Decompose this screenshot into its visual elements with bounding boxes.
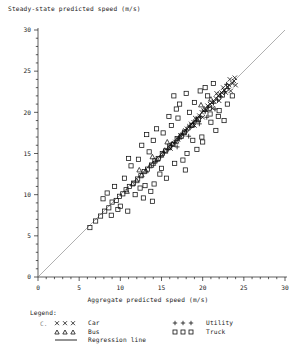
legend-title: Legend: — [30, 309, 57, 316]
legend-label-utility: Utility — [206, 319, 233, 328]
x-tick-label: 0 — [36, 284, 40, 291]
legend-column-right: Utility Truck — [172, 319, 233, 336]
y-tick-label: 20 — [24, 109, 32, 116]
x-axis-title: Aggregate predicted speed (m/s) — [0, 296, 296, 303]
line-marker-icon — [54, 336, 88, 345]
x-tick-label: 20 — [199, 284, 207, 291]
square-marker-icon — [172, 328, 206, 337]
x-marker-icon — [54, 319, 88, 328]
legend: Legend: C. Car — [30, 309, 280, 349]
legend-label-bus: Bus — [88, 328, 100, 337]
legend-item-utility: Utility — [172, 319, 233, 328]
x-tick-label: 5 — [77, 284, 81, 291]
regression-line — [38, 30, 285, 277]
y-tick-label: 0 — [27, 273, 31, 280]
legend-label-car: Car — [88, 319, 100, 328]
legend-c-marker: C. — [40, 320, 47, 327]
x-tick-label: 10 — [117, 284, 125, 291]
scatter-plot-figure: Steady-state predicted speed (m/s) 05101… — [0, 0, 296, 351]
legend-item-bus: Bus — [54, 328, 146, 337]
legend-column-left: Car Bus — [54, 319, 146, 345]
y-tick-label: 5 — [27, 232, 31, 239]
y-tick-label: 10 — [24, 191, 32, 198]
x-tick-label: 30 — [281, 284, 289, 291]
y-tick-label: 25 — [24, 67, 32, 74]
legend-item-regression-line: Regression line — [54, 336, 146, 345]
triangle-marker-icon — [54, 328, 88, 337]
y-tick-label: 30 — [24, 26, 32, 33]
x-tick-label: 25 — [240, 284, 248, 291]
x-tick-label: 15 — [158, 284, 166, 291]
legend-label-truck: Truck — [206, 328, 225, 337]
legend-label-regression-line: Regression line — [88, 336, 146, 345]
legend-item-car: Car — [54, 319, 146, 328]
y-tick-label: 15 — [24, 150, 32, 157]
plus-marker-icon — [172, 319, 206, 328]
legend-item-truck: Truck — [172, 328, 233, 337]
